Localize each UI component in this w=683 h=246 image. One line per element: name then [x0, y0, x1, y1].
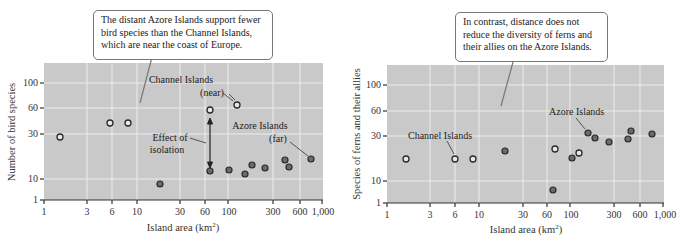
svg-text:300: 300 — [607, 209, 622, 220]
svg-text:3: 3 — [85, 206, 90, 217]
data-point — [628, 128, 634, 134]
svg-text:60: 60 — [200, 206, 210, 217]
data-point — [550, 187, 556, 193]
svg-text:600: 600 — [293, 206, 308, 217]
label-azore-islands: Azore Islands — [549, 106, 604, 117]
callout-line: which are near the coast of Europe. — [101, 39, 265, 52]
svg-text:3: 3 — [428, 209, 433, 220]
svg-text:6: 6 — [453, 209, 458, 220]
svg-text:1: 1 — [42, 206, 47, 217]
svg-text:1: 1 — [33, 194, 38, 205]
callout-line: In contrast, distance does not — [463, 16, 600, 29]
data-point — [585, 130, 591, 136]
label-channel-islands: Channel Islands — [149, 74, 213, 85]
x-axis-title: Island area (km2) — [490, 223, 563, 236]
svg-text:30: 30 — [175, 206, 185, 217]
svg-text:1,000: 1,000 — [654, 209, 677, 220]
data-point — [234, 102, 240, 108]
callout-line: reduce the diversity of ferns and — [463, 29, 600, 42]
x-tick-labels: 1 3 6 10 30 60 100 300 600 1,000 — [385, 209, 677, 220]
y-tick-labels: 100 60 30 10 1 — [366, 79, 381, 208]
svg-text:10: 10 — [474, 209, 484, 220]
data-point — [576, 150, 582, 156]
data-point — [625, 136, 631, 142]
data-point — [107, 120, 113, 126]
bird-species-chart: 100 60 30 10 1 1 3 6 10 30 60 100 300 60… — [6, 57, 334, 234]
label-far: (far) — [269, 133, 287, 145]
svg-text:100: 100 — [23, 77, 38, 88]
svg-text:10: 10 — [28, 173, 38, 184]
data-point — [649, 131, 655, 137]
svg-text:6: 6 — [110, 206, 115, 217]
data-point — [207, 168, 213, 174]
svg-text:600: 600 — [633, 209, 648, 220]
label-near: (near) — [200, 87, 224, 99]
svg-text:10: 10 — [132, 206, 142, 217]
data-point — [403, 156, 409, 162]
svg-text:60: 60 — [28, 102, 38, 113]
svg-text:1: 1 — [385, 209, 390, 220]
callout-line: their allies on the Azore Islands. — [463, 41, 600, 54]
bird-callout: The distant Azore Islands support fewer … — [93, 10, 273, 60]
label-effect-of: Effect of — [152, 132, 188, 143]
callout-line: bird species than the Channel Islands, — [101, 27, 265, 40]
data-point — [308, 156, 314, 162]
data-point — [569, 155, 575, 161]
svg-text:300: 300 — [266, 206, 281, 217]
data-point — [282, 157, 288, 163]
data-point — [470, 156, 476, 162]
svg-text:60: 60 — [371, 105, 381, 116]
callout-line: The distant Azore Islands support fewer — [101, 14, 265, 27]
fern-callout: In contrast, distance does not reduce th… — [455, 12, 608, 62]
data-point — [592, 135, 598, 141]
data-point — [57, 134, 63, 140]
y-tick-labels: 100 60 30 10 1 — [23, 77, 38, 205]
data-point — [552, 146, 558, 152]
label-azore-islands: Azore Islands — [232, 120, 287, 131]
x-axis-title: Island area (km2) — [147, 221, 220, 234]
svg-text:60: 60 — [542, 209, 552, 220]
x-tick-labels: 1 3 6 10 30 60 100 300 600 1,000 — [42, 206, 335, 217]
svg-text:100: 100 — [366, 79, 381, 90]
y-axis-title: Species of ferns and their allies — [351, 68, 362, 200]
svg-text:10: 10 — [371, 175, 381, 186]
svg-text:1,000: 1,000 — [312, 206, 335, 217]
y-axis-title: Number of bird species — [6, 83, 17, 181]
svg-text:30: 30 — [518, 209, 528, 220]
svg-text:100: 100 — [564, 209, 579, 220]
data-point — [125, 120, 131, 126]
data-point — [262, 165, 268, 171]
data-point — [249, 162, 255, 168]
svg-text:30: 30 — [28, 128, 38, 139]
data-point — [226, 167, 232, 173]
svg-text:30: 30 — [371, 130, 381, 141]
data-point — [606, 139, 612, 145]
data-point — [286, 164, 292, 170]
label-isolation: isolation — [150, 144, 184, 155]
data-point — [242, 171, 248, 177]
svg-text:1: 1 — [376, 197, 381, 208]
fern-species-chart: 100 60 30 10 1 1 3 6 10 30 60 100 300 60… — [351, 62, 676, 236]
label-channel-islands: Channel Islands — [408, 130, 472, 141]
svg-text:100: 100 — [222, 206, 237, 217]
data-point — [452, 156, 458, 162]
data-point — [502, 148, 508, 154]
data-point — [157, 181, 163, 187]
data-point — [207, 107, 213, 113]
